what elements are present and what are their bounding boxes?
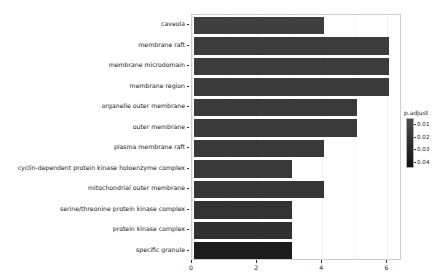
gridline-major <box>192 15 193 259</box>
legend-tick-label: 0.01 <box>417 121 429 127</box>
y-axis-tick-mark <box>187 147 189 148</box>
x-axis: 0246 <box>191 260 401 280</box>
y-axis-tick-label: organelle outer membrane <box>102 96 185 117</box>
y-axis-tick-label: membrane region <box>130 76 185 97</box>
legend-tick-mark <box>414 149 416 150</box>
bar <box>194 201 292 219</box>
y-axis-tick-label: membrane microdomain <box>109 55 185 76</box>
y-axis-tick-mark <box>187 250 189 251</box>
x-axis-tick-label: 4 <box>319 264 323 271</box>
bar <box>194 78 389 96</box>
legend-title: p.adjust <box>404 109 428 116</box>
bar <box>194 222 292 240</box>
bar <box>194 140 324 158</box>
legend-tick-label: 0.03 <box>417 146 429 152</box>
y-axis-tick-mark <box>187 86 189 87</box>
bar-chart: caveolamembrane raftmembrane microdomain… <box>0 0 446 280</box>
legend-tick-mark <box>414 124 416 125</box>
x-axis-tick-mark <box>191 260 192 263</box>
bar <box>194 99 357 117</box>
y-axis-tick-mark <box>187 229 189 230</box>
x-axis-tick-mark <box>321 260 322 263</box>
x-axis-tick-label: 2 <box>254 264 258 271</box>
bar <box>194 119 357 137</box>
legend-tick-label: 0.02 <box>417 134 429 140</box>
y-axis-tick-label: plasma membrane raft <box>114 137 185 158</box>
y-axis-tick-mark <box>187 24 189 25</box>
y-axis-tick-label: protein kinase complex <box>113 219 185 240</box>
bar <box>194 37 389 55</box>
y-axis-tick-mark <box>187 106 189 107</box>
y-axis-tick-label: caveola <box>161 14 185 35</box>
y-axis-tick-mark <box>187 127 189 128</box>
legend-padjust: p.adjust 0.010.020.030.04 <box>404 109 446 171</box>
y-axis-tick-label: mitochondrial outer membrane <box>88 178 185 199</box>
y-axis-tick-mark <box>187 45 189 46</box>
bar <box>194 58 389 76</box>
y-axis-tick-label: membrane raft <box>138 35 185 56</box>
y-axis-tick-label: cyclin-dependent protein kinase holoenzy… <box>18 158 185 179</box>
y-axis-tick-mark <box>187 168 189 169</box>
y-axis-labels: caveolamembrane raftmembrane microdomain… <box>0 14 189 260</box>
y-axis-tick-mark <box>187 65 189 66</box>
y-axis-tick-label: outer membrane <box>133 117 185 138</box>
bar <box>194 160 292 178</box>
x-axis-tick-label: 6 <box>384 264 388 271</box>
y-axis-tick-mark <box>187 209 189 210</box>
plot-panel <box>191 14 401 260</box>
y-axis-tick-mark <box>187 188 189 189</box>
y-axis-tick-label: specific granule <box>136 240 185 261</box>
bar <box>194 181 324 199</box>
x-axis-tick-mark <box>386 260 387 263</box>
y-axis-tick-label: serine/threonine protein kinase complex <box>60 199 185 220</box>
bar <box>194 242 292 260</box>
x-axis-tick-mark <box>256 260 257 263</box>
legend-tick-mark <box>414 137 416 138</box>
x-axis-tick-label: 0 <box>189 264 193 271</box>
legend-colorbar <box>406 118 414 168</box>
bar <box>194 17 324 35</box>
legend-tick-label: 0.04 <box>417 159 429 165</box>
legend-tick-mark <box>414 162 416 163</box>
